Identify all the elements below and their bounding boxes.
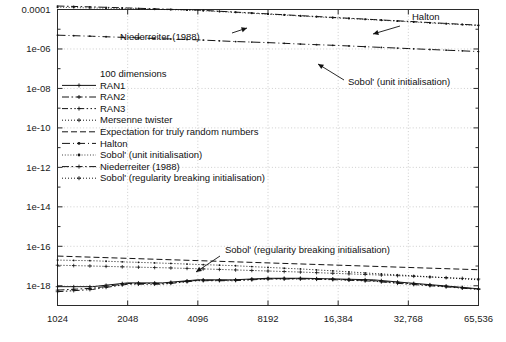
series-marker [478, 51, 480, 53]
x-tick-label: 1024 [47, 313, 68, 324]
series-marker [138, 261, 140, 263]
series-marker [186, 9, 188, 11]
series-marker [478, 279, 480, 281]
series-marker [299, 15, 301, 17]
series-marker [267, 42, 269, 44]
series-marker [154, 8, 156, 10]
series-marker [316, 269, 318, 271]
legend-entry-label: RAN1 [100, 80, 125, 91]
legend-marker [77, 118, 81, 122]
series-marker [57, 34, 59, 36]
series-marker [89, 6, 91, 8]
series-marker [282, 277, 286, 281]
series-marker [154, 262, 156, 264]
legend-marker [78, 142, 81, 145]
series-marker [57, 259, 59, 261]
legend: 100 dimensionsRAN1RAN2RAN3Mersenne twist… [62, 68, 265, 183]
series-marker [348, 271, 350, 273]
annotation-label: Niederreiter (1988) [120, 31, 200, 42]
series-marker [266, 277, 270, 281]
series-marker [332, 16, 334, 18]
annotation-arrowhead [241, 27, 247, 32]
series-marker [413, 275, 415, 277]
series-marker [138, 7, 140, 9]
x-tick-label: 8192 [257, 313, 278, 324]
series-marker [332, 44, 334, 46]
series-marker [169, 266, 173, 270]
series-marker [380, 19, 382, 21]
annotation-label: Sobol' (regularity breaking initialisati… [225, 244, 390, 255]
y-tick-label: 1e-12 [26, 162, 50, 173]
x-tick-label: 2048 [117, 313, 138, 324]
series-marker [397, 274, 399, 276]
series-marker [104, 265, 108, 269]
series-marker [105, 36, 107, 38]
figure-container: 0.00011e-061e-081e-101e-121e-141e-161e-1… [0, 0, 506, 342]
y-tick-label: 1e-06 [26, 43, 50, 54]
legend-entry-label: Mersenne twister [100, 114, 172, 125]
series-marker [461, 278, 463, 280]
y-tick-label: 1e-08 [26, 83, 50, 94]
series-marker [299, 268, 301, 270]
series-marker [364, 18, 366, 20]
series-marker [266, 269, 270, 273]
annotation-label: Halton [412, 11, 439, 22]
series-marker [251, 41, 253, 43]
series-marker [235, 41, 237, 43]
series-marker [348, 45, 350, 47]
series-marker [283, 42, 285, 44]
series-marker [364, 46, 366, 48]
y-tick-label: 1e-10 [26, 122, 50, 133]
y-axis-tick-labels: 0.00011e-061e-081e-101e-121e-141e-161e-1… [21, 4, 50, 291]
series-marker [331, 271, 335, 275]
legend-entry-label: Sobol' (regularity breaking initialisati… [100, 172, 265, 183]
legend-marker [77, 107, 81, 111]
series-marker [170, 8, 172, 10]
legend-entry-label: Expectation for truly random numbers [100, 126, 259, 137]
series-marker [235, 11, 237, 13]
series-marker [332, 270, 334, 272]
y-tick-label: 1e-18 [26, 280, 50, 291]
x-tick-label: 32,768 [394, 313, 423, 324]
series-marker [283, 267, 285, 269]
series-marker [316, 44, 318, 46]
legend-entry-label: Halton [100, 138, 127, 149]
series-marker [299, 270, 303, 274]
series-marker [445, 49, 447, 51]
series-marker [89, 260, 91, 262]
series-marker [105, 260, 107, 262]
legend-entry-label: RAN2 [100, 91, 125, 102]
x-axis-tick-labels: 102420484096819216,38432,76865,536 [47, 313, 493, 324]
y-tick-label: 0.0001 [21, 4, 50, 15]
series-marker [251, 266, 253, 268]
legend-marker [77, 165, 81, 169]
legend-title: 100 dimensions [100, 68, 167, 79]
series-marker [316, 16, 318, 18]
series-marker [348, 17, 350, 19]
series-marker [315, 271, 319, 275]
series-marker [380, 273, 382, 275]
series-marker [202, 10, 204, 12]
series-marker [73, 6, 75, 8]
series-marker [73, 260, 75, 262]
series-marker [380, 47, 382, 49]
series-marker [429, 276, 431, 278]
legend-marker [77, 176, 81, 180]
series-marker [57, 5, 59, 7]
series-marker [219, 10, 221, 12]
series-marker [88, 264, 92, 268]
legend-marker [77, 95, 81, 99]
series-marker [250, 269, 254, 273]
series-marker [397, 47, 399, 49]
series-marker [477, 288, 481, 292]
series-marker [219, 264, 221, 266]
series-marker [185, 267, 189, 271]
y-tick-label: 1e-16 [26, 241, 50, 252]
legend-entry-label: Sobol' (unit initialisation) [100, 149, 202, 160]
series-marker [445, 23, 447, 25]
series-marker [121, 261, 123, 263]
series-marker [105, 6, 107, 8]
series-marker [235, 265, 237, 267]
series-marker [397, 20, 399, 22]
legend-marker [77, 83, 81, 87]
